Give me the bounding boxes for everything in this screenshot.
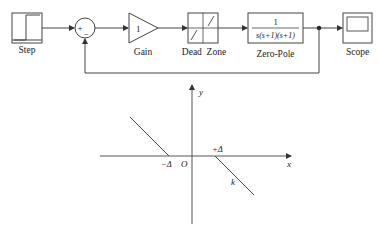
dead-zone-block: Dead Zone [182,13,226,57]
zero-pole-label: Zero-Pole [257,49,295,59]
step-label: Step [19,45,36,55]
y-axis-label: y [198,87,203,97]
zero-pole-block: 1 s(s+1)(s+1) Zero-Pole [248,13,303,59]
dead-zone-label: Dead Zone [182,47,226,57]
neg-threshold-label: −Δ [161,159,172,169]
left-slope-line [130,117,169,156]
gain-block: 1 Gain [129,13,158,57]
diagram-canvas: Step + − 1 Gain Dead Zone 1 s(s+1)(s+1) … [0,0,382,234]
slope-label: k [231,177,236,187]
dead-zone-characteristic-plot: y x O −Δ +Δ k [100,85,291,224]
sum-minus-sign: − [83,29,88,39]
sum-plus-sign: + [77,23,82,33]
right-slope-line [215,156,254,195]
pos-threshold-label: +Δ [212,144,223,154]
origin-label: O [181,159,188,169]
x-axis-label: x [286,159,291,169]
step-block: Step [12,13,42,55]
zero-pole-denominator: s(s+1)(s+1) [256,31,295,40]
gain-label: Gain [134,47,153,57]
gain-value: 1 [136,24,141,34]
sum-block: + − [75,18,95,39]
scope-label: Scope [346,47,369,57]
scope-block: Scope [343,13,372,57]
zero-pole-numerator: 1 [273,17,277,27]
